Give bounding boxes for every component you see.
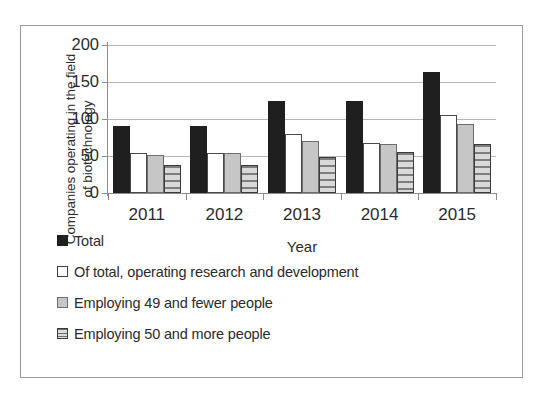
x-axis-label-2014: 2014: [341, 205, 419, 225]
bar-rd-2011[interactable]: [130, 153, 147, 193]
bar-rd-2015[interactable]: [440, 115, 457, 193]
bar-small-2015[interactable]: [457, 124, 474, 193]
x-tick-3: [341, 193, 342, 200]
bar-small-2013[interactable]: [302, 141, 319, 193]
y-tick-label-50: 50: [81, 146, 99, 165]
bar-group-2011: [108, 45, 186, 193]
bar-group-2013: [263, 45, 341, 193]
bar-total-2015[interactable]: [423, 72, 440, 193]
y-tick-label-200: 200: [71, 35, 99, 54]
x-tick-0: [108, 193, 109, 200]
chart-frame: Companies operating in the field of biot…: [20, 25, 523, 378]
legend-label-small: Employing 49 and fewer people: [74, 295, 273, 311]
y-tick-label-100: 100: [71, 109, 99, 128]
bar-large-2011[interactable]: [164, 165, 181, 193]
bar-total-2013[interactable]: [268, 101, 285, 193]
bar-rd-2013[interactable]: [285, 134, 302, 193]
chart-legend: TotalOf total, operating research and de…: [57, 225, 497, 349]
bar-small-2014[interactable]: [380, 144, 397, 193]
bar-small-2012[interactable]: [224, 153, 241, 193]
bar-group-2014: [341, 45, 419, 193]
legend-item-total[interactable]: Total: [57, 225, 497, 256]
x-axis-label-2015: 2015: [418, 205, 496, 225]
legend-item-small[interactable]: Employing 49 and fewer people: [57, 287, 497, 318]
legend-label-large: Employing 50 and more people: [74, 326, 271, 342]
y-tick-label-150: 150: [71, 72, 99, 91]
legend-item-rd[interactable]: Of total, operating research and develop…: [57, 256, 497, 287]
legend-swatch-rd-icon: [57, 266, 68, 277]
y-tick-label-0: 0: [90, 183, 99, 202]
x-tick-2: [263, 193, 264, 200]
x-axis-line: [107, 193, 496, 194]
legend-item-large[interactable]: Employing 50 and more people: [57, 318, 497, 349]
x-tick-5: [496, 193, 497, 200]
bar-groups: [108, 45, 496, 193]
legend-swatch-large-icon: [57, 328, 68, 339]
legend-swatch-total-icon: [57, 235, 68, 246]
bar-large-2012[interactable]: [241, 165, 258, 193]
bar-total-2011[interactable]: [113, 126, 130, 193]
x-axis-label-2012: 2012: [186, 205, 264, 225]
bar-rd-2012[interactable]: [207, 153, 224, 193]
bar-group-2012: [186, 45, 264, 193]
legend-label-total: Total: [74, 233, 104, 249]
x-tick-4: [418, 193, 419, 200]
x-axis-label-2011: 2011: [108, 205, 186, 225]
bar-group-2015: [418, 45, 496, 193]
bar-large-2014[interactable]: [397, 152, 414, 193]
bar-large-2015[interactable]: [474, 144, 491, 193]
bar-total-2014[interactable]: [346, 101, 363, 194]
bar-large-2013[interactable]: [319, 157, 336, 193]
bar-total-2012[interactable]: [190, 126, 207, 193]
bar-rd-2014[interactable]: [363, 143, 380, 193]
bar-small-2011[interactable]: [147, 155, 164, 193]
x-axis-labels: 20112012201320142015: [108, 205, 496, 225]
legend-swatch-small-icon: [57, 297, 68, 308]
x-axis-label-2013: 2013: [263, 205, 341, 225]
x-tick-1: [186, 193, 187, 200]
legend-label-rd: Of total, operating research and develop…: [74, 264, 358, 280]
plot-area: 050100150200 20112012201320142015: [108, 45, 496, 193]
